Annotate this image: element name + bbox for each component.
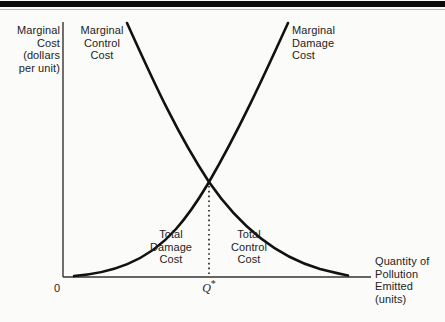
y-axis-title: Marginal Cost (dollars per unit) [6, 24, 60, 74]
optimum-tick-letter: Q [202, 281, 211, 295]
x-axis-title: Quantity of Pollution Emitted (units) [375, 255, 445, 305]
optimum-tick-label: Q* [193, 281, 225, 296]
total-control-cost-label: Total Control Cost [218, 228, 280, 266]
pollution-optimum-figure: Marginal Cost (dollars per unit) Quantit… [0, 0, 445, 322]
total-damage-cost-label: Total Damage Cost [140, 228, 202, 266]
origin-label: 0 [49, 282, 65, 295]
marginal-control-cost-label: Marginal Control Cost [79, 24, 125, 62]
optimum-tick-star: * [211, 278, 216, 289]
marginal-damage-cost-label: Marginal Damage Cost [292, 24, 354, 62]
